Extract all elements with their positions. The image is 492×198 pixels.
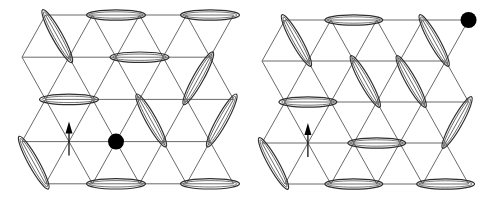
lattice-bond xyxy=(377,61,400,102)
lattice-bond xyxy=(354,61,377,102)
lattice-bond xyxy=(423,102,446,143)
spinon-arrowhead xyxy=(304,123,311,135)
lattice-bond xyxy=(423,20,446,61)
lattice-bond xyxy=(377,102,400,143)
lattice-bond xyxy=(262,20,285,61)
lattice-bond xyxy=(285,143,308,184)
lattice-bond xyxy=(262,61,285,102)
lattice-bond xyxy=(377,20,400,61)
spinon-arrow-icon xyxy=(304,123,311,157)
lattice-bond xyxy=(446,143,469,184)
lattice-bond xyxy=(331,20,354,61)
lattice-bond xyxy=(400,20,423,61)
lattice-bond xyxy=(377,143,400,184)
lattice-bond xyxy=(400,143,423,184)
holon-dot xyxy=(461,12,477,28)
lattice-bond xyxy=(285,102,308,143)
lattice-panel-right xyxy=(0,0,492,198)
lattice-bond xyxy=(308,20,331,61)
lattice-bond xyxy=(262,102,285,143)
lattice-bond xyxy=(354,143,377,184)
lattice-bond xyxy=(354,102,377,143)
lattice-bond xyxy=(331,61,354,102)
lattice-bond xyxy=(446,61,469,102)
lattice-bond xyxy=(285,20,308,61)
lattice-bond xyxy=(308,61,331,102)
lattice-bond xyxy=(400,102,423,143)
lattice-bond xyxy=(446,102,469,143)
lattice-bond xyxy=(262,143,285,184)
lattice-bond xyxy=(423,143,446,184)
lattice-bond xyxy=(354,20,377,61)
figure xyxy=(0,0,492,198)
lattice-bond xyxy=(423,61,446,102)
lattice-bond xyxy=(308,102,331,143)
lattice-bond xyxy=(331,143,354,184)
lattice-bond xyxy=(285,61,308,102)
lattice-bond xyxy=(331,102,354,143)
lattice-bond xyxy=(308,143,331,184)
lattice-bond xyxy=(400,61,423,102)
